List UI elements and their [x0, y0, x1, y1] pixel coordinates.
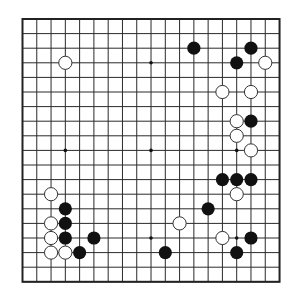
white-stone — [230, 129, 243, 142]
black-stone — [244, 42, 257, 55]
black-stone — [59, 217, 72, 230]
go-board[interactable] — [0, 0, 294, 300]
white-stone — [44, 246, 57, 259]
white-stone — [44, 217, 57, 230]
star-point — [149, 236, 153, 240]
black-stone — [73, 246, 86, 259]
star-point — [149, 149, 153, 153]
white-stone — [230, 188, 243, 201]
black-stone — [230, 56, 243, 69]
white-stone — [244, 144, 257, 157]
white-stone — [59, 246, 72, 259]
black-stone — [159, 246, 172, 259]
black-stone — [87, 231, 100, 244]
star-point — [64, 149, 68, 153]
black-stone — [244, 231, 257, 244]
black-stone — [230, 173, 243, 186]
star-point — [149, 61, 153, 65]
white-stone — [230, 115, 243, 128]
white-stone — [44, 231, 57, 244]
black-stone — [244, 173, 257, 186]
black-stone — [59, 231, 72, 244]
black-stone — [202, 202, 215, 215]
white-stone — [216, 85, 229, 98]
white-stone — [216, 231, 229, 244]
white-stone — [173, 217, 186, 230]
star-point — [235, 149, 239, 153]
black-stone — [59, 202, 72, 215]
white-stone — [244, 85, 257, 98]
black-stone — [244, 115, 257, 128]
black-stone — [216, 173, 229, 186]
black-stone — [187, 42, 200, 55]
black-stone — [230, 246, 243, 259]
white-stone — [44, 188, 57, 201]
star-point — [235, 236, 239, 240]
white-stone — [259, 56, 272, 69]
white-stone — [59, 56, 72, 69]
